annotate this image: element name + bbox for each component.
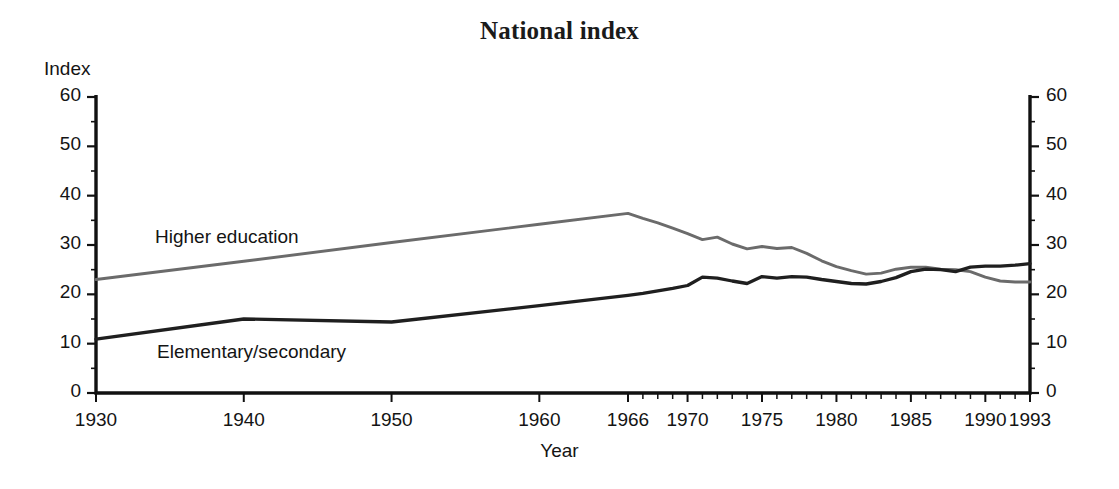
y-tick-label-left-30: 30 (60, 232, 81, 254)
y-tick-label-right-40: 40 (1046, 183, 1067, 205)
x-tick-label-1975: 1975 (734, 409, 790, 431)
y-tick-label-right-20: 20 (1046, 281, 1067, 303)
y-tick-label-left-50: 50 (60, 133, 81, 155)
x-tick-label-1985: 1985 (883, 409, 939, 431)
series-label-elementary-secondary: Elementary/secondary (157, 341, 346, 363)
chart-figure: National index Index 6050403020100 60504… (0, 0, 1119, 489)
x-tick-label-1950: 1950 (364, 409, 420, 431)
x-tick-label-1960: 1960 (511, 409, 567, 431)
y-tick-label-right-60: 60 (1046, 84, 1067, 106)
y-tick-label-right-10: 10 (1046, 331, 1067, 353)
y-tick-label-left-60: 60 (60, 84, 81, 106)
x-tick-label-1966: 1966 (600, 409, 656, 431)
y-tick-label-left-40: 40 (60, 183, 81, 205)
y-tick-label-right-30: 30 (1046, 232, 1067, 254)
x-tick-label-1993: 1993 (1002, 409, 1058, 431)
x-tick-label-1970: 1970 (660, 409, 716, 431)
x-tick-label-1980: 1980 (808, 409, 864, 431)
y-tick-label-left-0: 0 (70, 380, 81, 402)
x-axis-title: Year (0, 440, 1119, 462)
y-tick-label-left-20: 20 (60, 281, 81, 303)
y-tick-label-right-0: 0 (1046, 380, 1057, 402)
y-tick-label-right-50: 50 (1046, 133, 1067, 155)
y-tick-label-left-10: 10 (60, 331, 81, 353)
series-label-higher-education: Higher education (155, 226, 299, 248)
series-line-elementary-secondary (96, 264, 1030, 340)
x-tick-label-1940: 1940 (216, 409, 272, 431)
x-tick-label-1930: 1930 (68, 409, 124, 431)
